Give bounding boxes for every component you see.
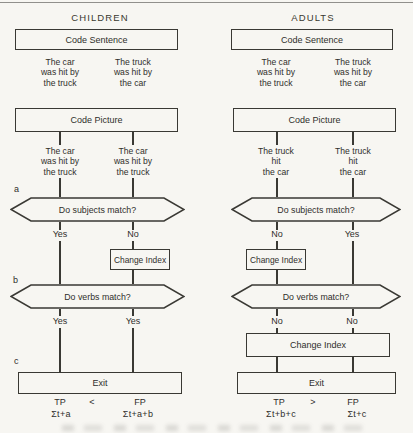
- adults-tp-label: TP: [264, 397, 294, 407]
- connector-line: [132, 241, 134, 249]
- connector-line: [59, 241, 61, 284]
- connector-line: [352, 357, 354, 372]
- connector-line: [132, 178, 134, 197]
- connector-line: [132, 131, 134, 145]
- children-tp-formula: Σt+a: [40, 409, 82, 419]
- margin-letter-c: c: [14, 356, 26, 366]
- children-subjects-decision-hexagon: Do subjects match?: [10, 197, 185, 222]
- connector-line: [352, 309, 354, 316]
- children-change-index-box: Change Index: [110, 249, 170, 270]
- children-sentence-stimulus-right: The truck was hit by the car: [98, 57, 168, 88]
- adults-subjects-question: Do subjects match?: [231, 197, 401, 222]
- connector-line: [59, 328, 61, 372]
- children-picture-stimulus-left: The car was hit by the truck: [25, 146, 95, 177]
- adults-subjects-answer-right: Yes: [337, 229, 367, 239]
- connector-line: [276, 270, 278, 284]
- children-code-sentence-box: Code Sentence: [15, 29, 178, 50]
- children-exit-label: Exit: [92, 378, 107, 388]
- children-verbs-answer-left: Yes: [45, 316, 75, 326]
- adults-code-picture-box: Code Picture: [233, 108, 396, 132]
- children-exit-box: Exit: [18, 372, 182, 394]
- flowchart-figure: CHILDREN Code Sentence The car was hit b…: [0, 0, 413, 433]
- connector-line: [132, 309, 134, 316]
- children-verbs-answer-right: Yes: [118, 316, 148, 326]
- adults-fp-label: FP: [338, 397, 368, 407]
- adults-verbs-change-index-box: Change Index: [246, 333, 390, 357]
- children-subjects-question: Do subjects match?: [10, 197, 185, 222]
- adults-picture-stimulus-right: The truck hit the car: [318, 146, 388, 177]
- children-code-picture-label: Code Picture: [70, 115, 122, 125]
- connector-line: [59, 309, 61, 316]
- children-verbs-question: Do verbs match?: [10, 284, 185, 309]
- children-code-picture-box: Code Picture: [15, 108, 178, 132]
- children-tp-label: TP: [45, 397, 75, 407]
- adults-sentence-stimulus-left: The car was hit by the truck: [241, 57, 311, 88]
- children-picture-stimulus-right: The car was hit by the truck: [98, 146, 168, 177]
- adults-verbs-answer-left: No: [262, 316, 292, 326]
- children-comparator: <: [80, 397, 104, 407]
- connector-line: [352, 241, 354, 284]
- connector-line: [132, 328, 134, 372]
- connector-line: [352, 178, 354, 197]
- adults-change-index-box: Change Index: [246, 249, 306, 270]
- connector-line: [276, 241, 278, 249]
- adults-verbs-change-index-label: Change Index: [290, 340, 346, 350]
- connector-line: [276, 178, 278, 197]
- children-code-sentence-label: Code Sentence: [65, 35, 127, 45]
- margin-letter-b: b: [13, 275, 25, 285]
- connector-line: [276, 309, 278, 316]
- children-column-title: CHILDREN: [40, 12, 160, 23]
- adults-code-picture-label: Code Picture: [288, 115, 340, 125]
- blurred-caption-fragment: [62, 425, 362, 431]
- adults-sentence-stimulus-right: The truck was hit by the car: [318, 57, 388, 88]
- adults-tp-formula: Σt+b+c: [256, 409, 306, 419]
- connector-line: [59, 131, 61, 145]
- adults-subjects-decision-hexagon: Do subjects match?: [231, 197, 401, 222]
- adults-column-title: ADULTS: [253, 12, 373, 23]
- margin-letter-a: a: [14, 184, 26, 194]
- adults-picture-stimulus-left: The truck hit the car: [241, 146, 311, 177]
- adults-exit-label: Exit: [309, 378, 324, 388]
- connector-line: [276, 131, 278, 145]
- children-subjects-answer-right: No: [118, 229, 148, 239]
- adults-change-index-label: Change Index: [250, 255, 302, 265]
- children-sentence-stimulus-left: The car was hit by the truck: [25, 57, 95, 88]
- adults-exit-box: Exit: [237, 372, 396, 394]
- adults-comparator: >: [301, 397, 325, 407]
- adults-code-sentence-label: Code Sentence: [281, 35, 343, 45]
- connector-line: [59, 178, 61, 197]
- adults-code-sentence-box: Code Sentence: [231, 29, 393, 50]
- connector-line: [132, 270, 134, 284]
- children-subjects-answer-left: Yes: [45, 229, 75, 239]
- adults-verbs-decision-hexagon: Do verbs match?: [231, 284, 401, 309]
- adults-verbs-question: Do verbs match?: [231, 284, 401, 309]
- children-fp-formula: Σt+a+b: [116, 409, 160, 419]
- adults-verbs-answer-right: No: [337, 316, 367, 326]
- connector-line: [352, 131, 354, 145]
- children-change-index-label: Change Index: [114, 255, 166, 265]
- children-verbs-decision-hexagon: Do verbs match?: [10, 284, 185, 309]
- adults-subjects-answer-left: No: [262, 229, 292, 239]
- connector-line: [276, 357, 278, 372]
- top-rule-divider: [0, 2, 413, 3]
- adults-fp-formula: Σt+c: [336, 409, 378, 419]
- children-fp-label: FP: [125, 397, 155, 407]
